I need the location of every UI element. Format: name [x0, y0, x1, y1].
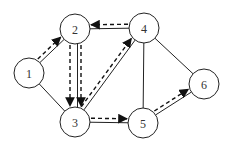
edge-4-5: [143, 43, 144, 108]
node-label: 4: [141, 22, 147, 36]
edge-5-6: [156, 92, 192, 115]
flow-arrow-1-2: [38, 37, 61, 59]
edge-2-4: [90, 28, 129, 29]
nodes-layer: 123456: [14, 13, 219, 138]
node-1: 1: [14, 58, 44, 88]
node-3: 3: [60, 107, 90, 137]
edge-3-4: [84, 40, 135, 110]
node-label: 6: [201, 78, 207, 92]
flow-network-diagram: 123456: [0, 0, 235, 143]
edges-layer: [39, 28, 193, 123]
edge-4-6: [155, 38, 193, 74]
flow-arrows-layer: [38, 24, 189, 119]
node-2: 2: [60, 14, 90, 44]
flow-arrow-3-4: [81, 39, 131, 107]
node-5: 5: [128, 108, 158, 138]
node-label: 2: [72, 23, 78, 37]
flow-arrow-4-2: [91, 24, 128, 25]
edge-3-5: [90, 122, 128, 123]
node-6: 6: [189, 69, 219, 99]
flow-arrow-3-5: [91, 118, 127, 119]
node-label: 3: [72, 116, 78, 130]
edge-1-3: [39, 84, 64, 111]
node-label: 5: [140, 117, 146, 131]
edge-1-2: [40, 39, 64, 62]
flow-arrow-5-6: [154, 89, 188, 111]
node-label: 1: [26, 67, 32, 81]
node-4: 4: [129, 13, 159, 43]
